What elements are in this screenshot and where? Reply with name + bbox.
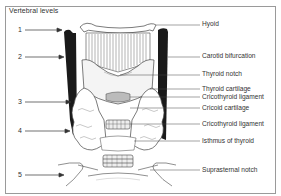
vertebral-level-3: 3 (18, 98, 22, 105)
label-thyroid-notch: Thyroid notch (202, 70, 242, 78)
trachea (103, 155, 133, 167)
vertebral-level-4: 4 (18, 127, 22, 134)
vertebral-level-1: 1 (18, 26, 22, 33)
label-suprasternal-notch: Suprasternal notch (202, 166, 257, 174)
vertebral-level-2: 2 (18, 53, 22, 60)
label-carotid-bifurcation: Carotid bifurcation (202, 52, 256, 60)
label-cricothyroid-ligament-upper: Cricothyroid ligament (202, 93, 264, 101)
vertebral-level-5: 5 (18, 171, 22, 178)
hyoid-bone (80, 23, 156, 33)
label-cricoid-cartilage: Cricoid cartilage (202, 104, 249, 112)
cricoid-cartilage (106, 120, 130, 129)
level-arrows (25, 28, 71, 177)
cricothyroid-ligament (106, 92, 130, 102)
label-isthmus-of-thyroid: Isthmus of thyroid (202, 137, 254, 145)
label-thyroid-cartilage: Thyroid cartilage (202, 85, 251, 93)
label-cricothyroid-ligament-lower: Cricothyroid ligament (202, 120, 264, 128)
isthmus-of-thyroid (100, 136, 136, 151)
label-hyoid: Hyoid (202, 20, 219, 28)
